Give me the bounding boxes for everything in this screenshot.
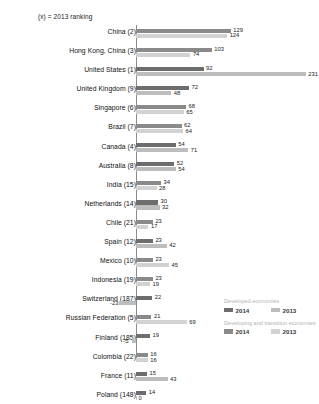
bar-2014 xyxy=(136,315,151,319)
category-label: Poland (148) xyxy=(0,391,136,398)
bar-2013 xyxy=(136,205,160,209)
value-label-2013: -23 xyxy=(110,300,118,306)
value-label-2014: 54 xyxy=(178,141,184,147)
bar-2014 xyxy=(136,181,161,185)
chart-row: India (15)3428 xyxy=(0,178,318,197)
chart-row: Chile (21)2317 xyxy=(0,216,318,235)
row-plot: 6264 xyxy=(136,120,318,139)
value-label-2013: 124 xyxy=(230,32,240,38)
value-label-2014: 14 xyxy=(149,389,155,395)
value-label-2014: 21 xyxy=(154,313,160,319)
legend-label: 2013 xyxy=(283,307,297,314)
bar-2014 xyxy=(136,105,186,109)
value-label-2013: 48 xyxy=(174,90,180,96)
value-label-2013: 16 xyxy=(150,357,156,363)
category-label: Brazil (7) xyxy=(0,123,136,130)
category-label: Singapore (6) xyxy=(0,104,136,111)
bar-2014 xyxy=(136,239,153,243)
bar-2013 xyxy=(119,301,136,305)
category-label: India (15) xyxy=(0,181,136,188)
value-label-2014: 19 xyxy=(152,332,158,338)
value-label-2014: 72 xyxy=(191,84,197,90)
chart-row: Australia (8)5254 xyxy=(0,159,318,178)
chart-row: France (11)1543 xyxy=(0,369,318,388)
row-plot: 10374 xyxy=(136,44,318,63)
row-plot: 6865 xyxy=(136,101,318,120)
chart-row: Brazil (7)6264 xyxy=(0,120,318,139)
value-label-2013: 54 xyxy=(178,166,184,172)
bar-2014 xyxy=(136,296,152,300)
chart-row: United States (1)92231 xyxy=(0,63,318,82)
category-label: Netherlands (14) xyxy=(0,200,136,207)
chart-legend: Developed economies20142013Developing an… xyxy=(224,298,318,341)
bar-2014 xyxy=(136,353,148,357)
legend-item: 2013 xyxy=(271,307,315,314)
value-label-2014: 92 xyxy=(206,65,212,71)
row-plot: 129124 xyxy=(136,25,318,44)
row-plot: 3032 xyxy=(136,197,318,216)
legend-item: 2014 xyxy=(224,328,268,335)
legend-label: 2014 xyxy=(236,307,250,314)
ranking-note: (x) = 2013 ranking xyxy=(38,13,92,20)
bar-2013 xyxy=(136,244,167,248)
value-label-2014: 15 xyxy=(150,370,156,376)
category-label: Chile (21) xyxy=(0,219,136,226)
legend-group: Developed economies20142013 xyxy=(224,298,318,314)
category-label: Canada (4) xyxy=(0,143,136,150)
value-label-2013: 43 xyxy=(170,376,176,382)
bar-2014 xyxy=(136,334,150,338)
value-label-2013: 69 xyxy=(189,319,195,325)
value-label-2013: 74 xyxy=(193,51,199,57)
legend-items: 20142013 xyxy=(224,328,318,335)
category-label: France (11) xyxy=(0,372,136,379)
row-plot: 92231 xyxy=(136,63,318,82)
row-plot: 2319 xyxy=(136,273,318,292)
legend-group: Developing and transition economies20142… xyxy=(224,320,318,336)
bar-2014 xyxy=(136,162,174,166)
value-label-2013: 32 xyxy=(162,204,168,210)
category-label: Colombia (22) xyxy=(0,353,136,360)
bar-2014 xyxy=(136,29,231,33)
category-label: Hong Kong, China (3) xyxy=(0,47,136,54)
bar-2013 xyxy=(136,358,148,362)
chart-rows: China (2)129124Hong Kong, China (3)10374… xyxy=(0,25,318,404)
category-label: United States (1) xyxy=(0,66,136,73)
value-label-2013: 64 xyxy=(186,128,192,134)
bar-2013 xyxy=(136,129,183,133)
bar-2013 xyxy=(136,167,176,171)
row-plot: 1543 xyxy=(136,369,318,388)
category-label: United Kingdom (9) xyxy=(0,85,136,92)
row-plot: 7248 xyxy=(136,82,318,101)
value-label-2013: -5 xyxy=(123,338,128,344)
chart-row: United Kingdom (9)7248 xyxy=(0,82,318,101)
row-plot: 3428 xyxy=(136,178,318,197)
value-label-2013: 19 xyxy=(152,281,158,287)
value-label-2013: 231 xyxy=(308,71,318,77)
bar-2013 xyxy=(136,148,188,152)
bar-2013 xyxy=(136,110,184,114)
bar-2013 xyxy=(136,91,171,95)
category-label: China (2) xyxy=(0,28,136,35)
bar-2014 xyxy=(136,372,147,376)
legend-swatch-icon xyxy=(271,308,280,312)
legend-label: 2013 xyxy=(283,328,297,335)
legend-label: 2014 xyxy=(236,328,250,335)
legend-swatch-icon xyxy=(271,329,280,333)
bar-2013 xyxy=(136,377,168,381)
value-label-2013: 17 xyxy=(151,223,157,229)
row-plot: 2345 xyxy=(136,254,318,273)
row-plot: 5471 xyxy=(136,140,318,159)
chart-row: Netherlands (14)3032 xyxy=(0,197,318,216)
bar-2013 xyxy=(136,396,137,400)
legend-swatch-icon xyxy=(224,329,233,333)
bar-2014 xyxy=(136,86,189,90)
bar-2013 xyxy=(136,320,187,324)
row-plot: 2317 xyxy=(136,216,318,235)
bar-2013 xyxy=(136,263,169,267)
bar-2013 xyxy=(132,339,136,343)
row-plot: 2342 xyxy=(136,235,318,254)
bar-2013 xyxy=(136,282,150,286)
value-label-2013: 71 xyxy=(191,147,197,153)
bar-2014 xyxy=(136,143,176,147)
